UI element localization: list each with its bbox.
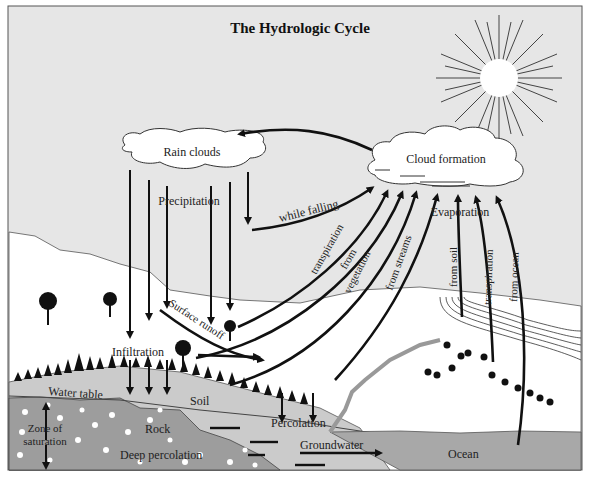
sun-disc (480, 59, 518, 97)
label-groundwater: Groundwater (300, 438, 363, 452)
label-zone-of: Zone of (28, 422, 63, 434)
label-infiltration: Infiltration (112, 345, 164, 359)
label-from-soil: from soil (447, 247, 459, 287)
label-from-ocean: from ocean (507, 251, 521, 302)
hydrologic-cycle-diagram: The Hydrologic Cycle Rain clouds Cloud f… (0, 0, 589, 478)
label-rain-clouds: Rain clouds (164, 145, 221, 159)
label-rock: Rock (145, 422, 170, 436)
label-precipitation: Precipitation (158, 194, 219, 208)
label-soil: Soil (190, 394, 210, 408)
label-deep-percolation: Deep percolation (120, 448, 202, 462)
label-percolation: Percolation (271, 416, 326, 430)
label-cloud-formation: Cloud formation (406, 152, 486, 166)
label-evaporation: Evaporation (431, 205, 490, 219)
diagram-title: The Hydrologic Cycle (230, 20, 370, 36)
label-transpiration-right: transpiration (481, 249, 495, 305)
label-ocean: Ocean (448, 447, 479, 461)
label-saturation: saturation (23, 435, 67, 447)
